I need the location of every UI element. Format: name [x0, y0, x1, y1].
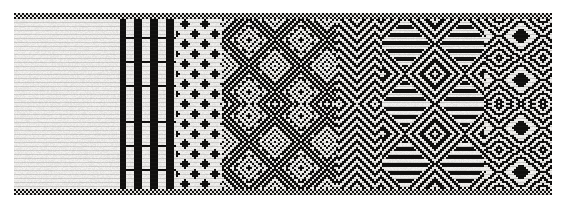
- textile-figure: Woven textile band: [0, 0, 566, 205]
- woven-textile-band: [14, 13, 552, 195]
- weave-canvas: [14, 13, 552, 195]
